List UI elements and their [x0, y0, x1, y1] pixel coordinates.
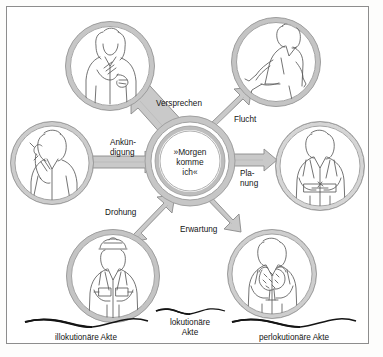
diagram-canvas: »Morgen komme ich«: [0, 0, 383, 357]
label-illokutionaere-akte: illokutionäre Akte: [55, 333, 117, 342]
brace-illocutionary: [25, 319, 148, 327]
label-planung-line1: Pla-: [240, 169, 255, 178]
center-text-line1: »Morgen: [173, 147, 206, 157]
speech-act-diagram: »Morgen komme ich«: [0, 0, 383, 357]
label-ankuendigung-line2: digung: [110, 148, 135, 157]
label-planung-line2: nung: [240, 179, 259, 188]
label-flucht: Flucht: [234, 115, 257, 124]
circle-bottom-right: [228, 230, 317, 319]
label-erwartung: Erwartung: [180, 225, 218, 234]
circle-bottom-left: [67, 230, 160, 323]
label-drohung: Drohung: [105, 208, 137, 217]
circle-top-right: [232, 18, 321, 122]
center-text-line3: ich«: [182, 167, 198, 177]
circle-top-left: [66, 22, 155, 111]
label-lokutionaere-akte-line2: Akte: [182, 328, 199, 337]
label-ankuendigung-line1: Ankün-: [110, 138, 136, 147]
brace-locutionary: [156, 309, 225, 314]
circle-left: [11, 122, 94, 205]
label-versprechen: Versprechen: [156, 99, 202, 108]
label-lokutionaere-akte-line1: lokutionäre: [170, 318, 211, 327]
label-perlokutionaere-akte: perlokutionäre Akte: [259, 333, 330, 342]
center-text-line2: komme: [176, 157, 204, 167]
brace-perlocutionary: [232, 319, 356, 327]
circle-right: [276, 122, 365, 211]
